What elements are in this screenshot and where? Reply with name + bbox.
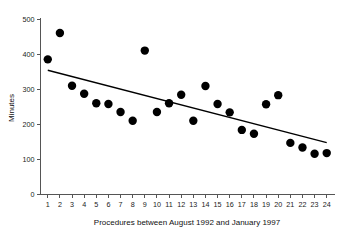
x-tick-label: 19 <box>262 200 270 209</box>
data-point <box>286 139 294 147</box>
data-point <box>250 130 258 138</box>
data-point <box>274 91 282 99</box>
x-axis-label: Procedures between August 1992 and Janua… <box>94 218 281 227</box>
data-point <box>323 149 331 157</box>
data-point <box>262 100 270 108</box>
trendline-group <box>48 70 327 142</box>
x-tick-label: 11 <box>165 200 172 209</box>
x-tick-label: 5 <box>94 200 98 209</box>
x-tick-label: 3 <box>70 200 74 209</box>
x-tick-label: 14 <box>201 200 209 209</box>
data-point <box>80 90 88 98</box>
x-tick-label: 7 <box>119 200 123 209</box>
x-tick-label: 24 <box>323 200 331 209</box>
data-point <box>310 150 318 158</box>
x-tick-label: 10 <box>153 200 161 209</box>
x-tick-label: 22 <box>298 200 306 209</box>
x-tick-label: 23 <box>311 200 319 209</box>
x-tick-label: 12 <box>177 200 185 209</box>
y-tick-label: 0 <box>31 190 35 199</box>
x-tick-label: 9 <box>143 200 147 209</box>
data-point <box>189 117 197 125</box>
x-tick-label: 6 <box>106 200 110 209</box>
x-tick-label: 2 <box>58 200 62 209</box>
data-point <box>104 100 112 108</box>
scatter-plot-figure: Minutes 0100200300400500 123456789101112… <box>0 0 343 237</box>
regression-trendline <box>48 70 327 142</box>
x-tick-label: 16 <box>226 200 234 209</box>
data-point <box>141 46 149 54</box>
y-tick-label: 200 <box>23 120 35 129</box>
x-tick-label: 15 <box>214 200 222 209</box>
data-points-group <box>44 29 331 158</box>
data-point <box>201 82 209 90</box>
y-tick-label: 400 <box>23 50 35 59</box>
y-tick-label: 500 <box>23 15 35 24</box>
data-point <box>213 100 221 108</box>
y-tick-label: 300 <box>23 85 35 94</box>
data-point <box>225 108 233 116</box>
data-point <box>116 108 124 116</box>
y-axis-label: Minutes <box>7 94 16 122</box>
data-point <box>177 91 185 99</box>
data-point <box>56 29 64 37</box>
x-tick-label: 17 <box>238 200 246 209</box>
plot-canvas: Minutes 0100200300400500 123456789101112… <box>0 0 343 237</box>
x-tick-label: 1 <box>46 200 50 209</box>
x-tick-label: 20 <box>274 200 282 209</box>
data-point <box>68 81 76 89</box>
x-tick-label: 8 <box>131 200 135 209</box>
x-tick-label: 13 <box>189 200 197 209</box>
x-tick-label: 18 <box>250 200 258 209</box>
x-tick-label: 4 <box>82 200 86 209</box>
data-point <box>44 55 52 63</box>
data-point <box>238 126 246 134</box>
data-point <box>153 108 161 116</box>
x-axis-ticks: 123456789101112131415161718192021222324 <box>46 195 331 209</box>
data-point <box>165 99 173 107</box>
y-tick-label: 100 <box>23 155 35 164</box>
x-tick-label: 21 <box>286 200 294 209</box>
data-point <box>92 99 100 107</box>
data-point <box>128 117 136 125</box>
data-point <box>298 143 306 151</box>
y-axis-ticks: 0100200300400500 <box>23 15 41 200</box>
